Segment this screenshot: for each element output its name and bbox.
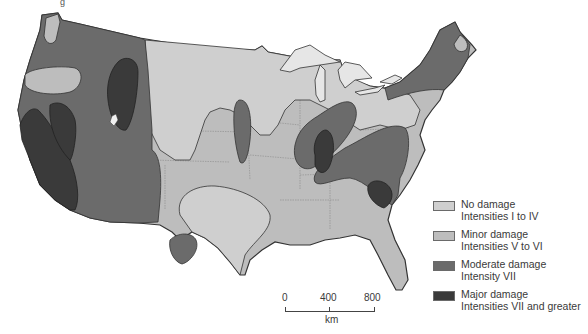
legend-intensity: Intensity VII — [461, 270, 546, 282]
scale-tick-0: 0 — [282, 292, 288, 303]
swatch-moderate-damage — [433, 261, 455, 271]
legend-item-minor-damage: Minor damage Intensities V to VI — [433, 228, 588, 258]
legend-label: Major damage — [461, 288, 581, 300]
legend-intensity: Intensities VII and greater — [461, 300, 581, 312]
legend-item-moderate-damage: Moderate damage Intensity VII — [433, 258, 588, 288]
scale-unit: km — [325, 314, 338, 325]
scale-tick-400: 400 — [320, 292, 337, 303]
swatch-minor-damage — [433, 231, 455, 241]
legend-item-major-damage: Major damage Intensities VII and greater — [433, 288, 588, 318]
legend-intensity: Intensities V to VI — [461, 240, 543, 252]
scale-bar-mid-tick — [329, 307, 330, 311]
legend-label: No damage — [461, 198, 539, 210]
legend-label: Minor damage — [461, 228, 543, 240]
legend-intensity: Intensities I to IV — [461, 210, 539, 222]
swatch-no-damage — [433, 201, 455, 211]
swatch-major-damage — [433, 291, 455, 301]
scale-bar: 0 400 800 km — [280, 290, 400, 330]
title-fragment: g — [60, 0, 65, 7]
scale-tick-800: 800 — [364, 292, 381, 303]
legend-item-no-damage: No damage Intensities I to IV — [433, 198, 588, 228]
legend-label: Moderate damage — [461, 258, 546, 270]
scale-bar-line — [285, 307, 375, 312]
legend: No damage Intensities I to IV Minor dama… — [433, 198, 588, 318]
